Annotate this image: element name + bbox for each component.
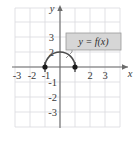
x-tick-label-neg2: -2	[28, 70, 37, 81]
x-tick-label-3: 3	[102, 70, 107, 81]
x-axis-label: x	[127, 68, 133, 79]
callout-label: y = f(x)	[77, 36, 109, 48]
y-tick-label-3: 3	[49, 32, 54, 43]
y-axis-label: y	[49, 3, 55, 14]
axis-lines	[12, 7, 128, 128]
y-tick-label-neg3: -3	[48, 107, 57, 118]
x-tick-label-2: 2	[87, 70, 92, 81]
y-tick-label-neg2: -2	[48, 92, 57, 103]
x-tick-label-neg3: -3	[13, 70, 22, 81]
curve-endpoint-right	[72, 64, 77, 69]
curve-endpoint-left	[42, 64, 47, 69]
coordinate-plane-svg: y x -3 -2 -1 2 3 3 2 -1 -2 -3 y = f(x)	[0, 0, 138, 142]
y-tick-label-neg1: -1	[48, 77, 57, 88]
graph-figure: y x -3 -2 -1 2 3 3 2 -1 -2 -3 y = f(x)	[0, 0, 138, 142]
